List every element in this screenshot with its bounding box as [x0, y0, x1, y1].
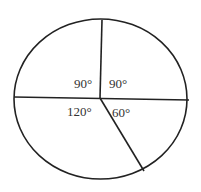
sector-label-upper-right: 90°	[109, 76, 127, 91]
sector-label-upper-left: 90°	[74, 76, 92, 91]
sector-label-lower-right: 60°	[112, 105, 130, 120]
sector-label-lower-left: 120°	[67, 104, 92, 119]
vertical-radius	[100, 20, 102, 98]
circle-diagram: 90° 90° 120° 60°	[0, 0, 201, 192]
